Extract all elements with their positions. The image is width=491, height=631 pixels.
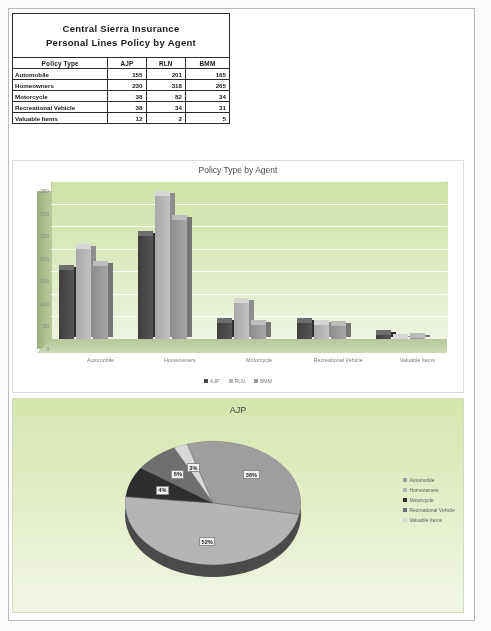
bar-top <box>393 334 408 339</box>
y-axis-tick-label: 250 <box>23 233 49 239</box>
scanned-page: Central Sierra Insurance Personal Lines … <box>0 0 491 631</box>
cell-policy-type: Homeowners <box>13 80 108 91</box>
bar-top <box>297 318 312 323</box>
cell-policy-type: Valuable Items <box>13 113 108 124</box>
pie-slice-label: 6% <box>171 470 184 479</box>
bar-ajp <box>376 334 391 339</box>
table-row: Homeowners 230 318 265 <box>13 80 230 91</box>
bar-face <box>297 322 312 339</box>
cell-rln: 318 <box>146 80 185 91</box>
bar-top <box>217 318 232 323</box>
cell-ajp: 38 <box>108 102 146 113</box>
cell-bmm: 34 <box>185 91 229 102</box>
legend-swatch <box>403 498 407 502</box>
bar-bmm <box>93 265 108 339</box>
cell-rln: 34 <box>146 102 185 113</box>
bar-face <box>59 269 74 339</box>
cell-ajp: 155 <box>108 69 146 80</box>
y-axis-tick-label: 200 <box>23 256 49 262</box>
pie-chart-panel: AJP 36%52%4%6%3% AutomobileHomeownersMot… <box>12 398 464 613</box>
bar-face <box>251 324 266 339</box>
bar-group <box>217 181 296 339</box>
legend-item-ajp: AJP <box>204 378 220 384</box>
x-axis-tick-label: Automobile <box>66 357 136 363</box>
bar-top <box>76 244 91 249</box>
pie-3d-face <box>125 441 301 565</box>
bar-top <box>155 191 170 196</box>
bar-group <box>59 181 138 339</box>
bar-side <box>187 217 192 337</box>
pie-legend-item: Recreational Vehicle <box>403 507 455 513</box>
bar-ajp <box>217 322 232 339</box>
table-row: Automobile 155 201 165 <box>13 69 230 80</box>
bar-bmm <box>410 337 425 339</box>
bar-rln <box>76 248 91 339</box>
legend-label: Recreational Vehicle <box>409 507 455 513</box>
bar-rln <box>155 195 170 339</box>
bar-group <box>376 181 455 339</box>
cell-policy-type: Recreational Vehicle <box>13 102 108 113</box>
cell-bmm: 265 <box>185 80 229 91</box>
bar-ajp <box>297 322 312 339</box>
legend-label: Automobile <box>409 477 434 483</box>
bar-face <box>155 195 170 339</box>
x-axis-tick-label: Motorcycle <box>224 357 294 363</box>
pie-slice-label: 4% <box>156 486 169 495</box>
pie-slice-label: 3% <box>187 463 200 472</box>
cell-rln: 2 <box>146 113 185 124</box>
bar-top <box>59 265 74 270</box>
bar-top <box>376 330 391 335</box>
legend-label: Motorcycle <box>409 497 433 503</box>
table-row: Recreational Vehicle 38 34 31 <box>13 102 230 113</box>
legend-label: AJP <box>210 378 220 384</box>
pie-chart-legend: AutomobileHomeownersMotorcycleRecreation… <box>403 477 455 523</box>
bar-chart-legend: AJPRLNBMM <box>13 378 463 384</box>
bar-side <box>108 263 113 337</box>
x-axis-tick-label: Valuable Items <box>382 357 452 363</box>
legend-swatch <box>229 379 233 383</box>
bar-face <box>76 248 91 339</box>
legend-swatch <box>403 478 407 482</box>
x-axis-tick-label: Homeowners <box>145 357 215 363</box>
legend-swatch <box>254 379 258 383</box>
legend-label: Valuable Items <box>409 517 442 523</box>
cell-bmm: 5 <box>185 113 229 124</box>
bar-side <box>266 322 271 337</box>
pie-legend-item: Automobile <box>403 477 455 483</box>
bar-rln <box>234 302 249 339</box>
cell-ajp: 12 <box>108 113 146 124</box>
pie-slice-label: 36% <box>243 470 259 479</box>
pie-slice-label: 52% <box>199 537 215 546</box>
bar-face <box>138 235 153 339</box>
table-header-row: Policy Type AJP RLN BMM <box>13 58 230 69</box>
y-axis-tick-label: 300 <box>23 211 49 217</box>
y-axis-tick-label: 150 <box>23 278 49 284</box>
pie-legend-item: Motorcycle <box>403 497 455 503</box>
bar-face <box>314 324 329 339</box>
x-axis-tick-label: Recreational Vehicle <box>303 357 373 363</box>
y-axis-tick-label: 0 <box>23 346 49 352</box>
cell-ajp: 230 <box>108 80 146 91</box>
bar-face <box>234 302 249 339</box>
legend-swatch <box>403 488 407 492</box>
bar-face <box>172 219 187 339</box>
y-axis-tick-label: 50 <box>23 323 49 329</box>
table-row: Valuable Items 12 2 5 <box>13 113 230 124</box>
legend-item-bmm: BMM <box>254 378 272 384</box>
bar-top <box>138 231 153 236</box>
bar-chart-plot-area: 350300250200150100500 AutomobileHomeowne… <box>23 181 455 361</box>
bar-bmm <box>331 325 346 339</box>
table-row: Motorcycle 38 82 34 <box>13 91 230 102</box>
bar-rln <box>393 338 408 340</box>
y-axis-tick-label: 100 <box>23 301 49 307</box>
cell-ajp: 38 <box>108 91 146 102</box>
bar-chart-panel: Policy Type by Agent 3503002502001501005… <box>12 160 464 393</box>
bar-chart-title: Policy Type by Agent <box>13 165 463 175</box>
pie-chart-stage: 36%52%4%6%3% <box>125 433 301 597</box>
column-header-policy-type: Policy Type <box>13 58 108 69</box>
y-axis-tick-label: 350 <box>23 188 49 194</box>
legend-label: RLN <box>235 378 245 384</box>
pie-chart-title: AJP <box>13 405 463 415</box>
legend-label: BMM <box>260 378 272 384</box>
legend-swatch <box>204 379 208 383</box>
